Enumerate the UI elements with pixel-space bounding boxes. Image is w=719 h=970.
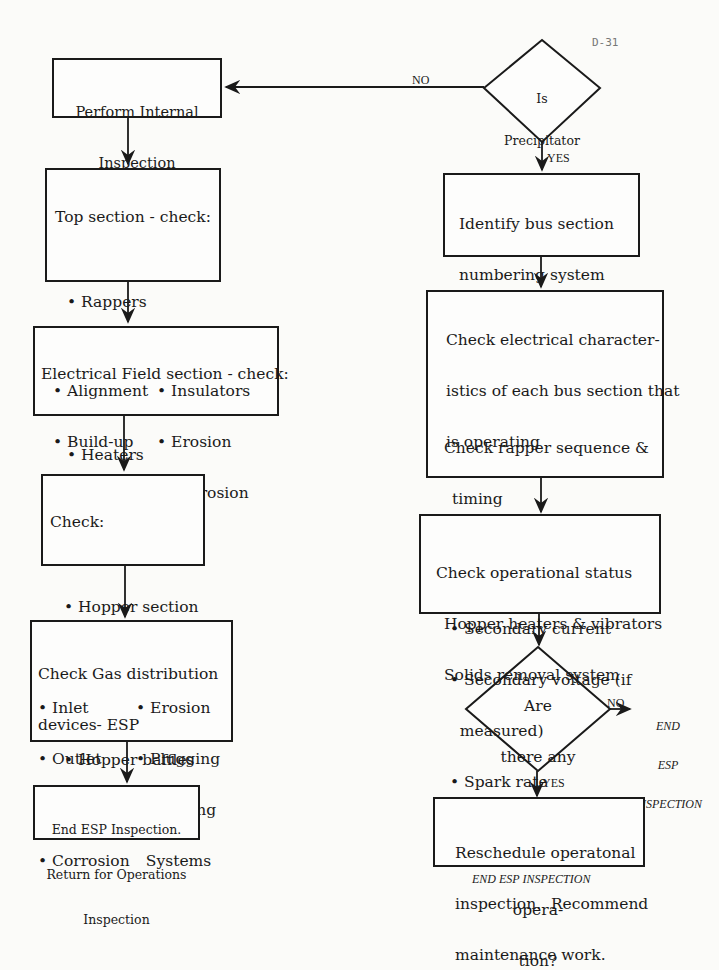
list-item: • Inlet (38, 700, 130, 717)
reschedule-line: Reschedule operatonal (455, 845, 648, 862)
operational-status-box: Check operational status Hopper heaters … (419, 514, 661, 614)
perform-internal-inspection-box: Perform Internal Inspection (52, 58, 222, 118)
decision-line: there any (478, 749, 598, 766)
operational-line: Check operational status (436, 565, 662, 582)
decision-line: Are (478, 698, 598, 715)
decision-line: Precipitator (492, 134, 592, 148)
end-esp-inspection-label: END ESP INSPECTION (472, 873, 590, 886)
top-section-box: Top section - check: • Rappers • Drives … (45, 168, 221, 282)
end-line: End ESP Inspection. (35, 822, 198, 837)
perform-line: Perform Internal (54, 104, 220, 121)
end-line: Inspection (35, 912, 198, 927)
list-item: • Rappers (67, 294, 211, 311)
identify-line: numbering system (459, 267, 653, 284)
end-line: Return for Operations (35, 867, 198, 882)
identify-bus-section-box: Identify bus section numbering system Ch… (443, 173, 640, 257)
elec-after: Check rapper sequence & (444, 440, 649, 457)
list-item: • Erosion (157, 434, 250, 451)
list-item: • Erosion (136, 700, 220, 717)
hopper-title: Check: (50, 514, 199, 531)
list-item: • Insulators (157, 383, 250, 400)
operational-line: Hopper heaters & vibrators (436, 616, 662, 633)
hopper-check-box: Check: • Hopper section • Build-up • Cor… (41, 474, 205, 566)
yes-label-bottom: YES (542, 775, 565, 792)
list-item: • Plugging (136, 751, 220, 768)
list-item: • Build-up (53, 434, 148, 451)
list-item: • Hopper section (64, 599, 199, 616)
electrical-characteristics-box: Check electrical character- istics of ea… (426, 290, 664, 478)
yes-label-top: YES (547, 150, 570, 167)
reschedule-line: maintenance work. (455, 947, 648, 964)
electrical-field-box: Electrical Field section - check: • Alig… (33, 326, 279, 416)
elec-after: timing (444, 491, 649, 508)
reschedule-box: Reschedule operatonal inspection. Recomm… (433, 797, 645, 867)
top-section-title: Top section - check: (55, 209, 211, 226)
no-end-line: ESP (630, 759, 706, 772)
gas-distribution-box: Check Gas distribution devices- ESP • In… (30, 620, 233, 742)
list-item: • Alignment (53, 383, 148, 400)
elec-line: Check electrical character- (446, 332, 679, 349)
no-label-bottom: NO (607, 695, 624, 712)
reschedule-line: inspection. Recommend (455, 896, 648, 913)
no-label-top: NO (412, 72, 429, 89)
decision-line: Is (492, 92, 592, 106)
identify-line: Identify bus section (459, 216, 653, 233)
list-item: • Outlet (38, 751, 130, 768)
end-esp-inspection-box: End ESP Inspection. Return for Operation… (33, 785, 200, 840)
no-end-line: END (630, 720, 706, 733)
elec-line: istics of each bus section that (446, 383, 679, 400)
